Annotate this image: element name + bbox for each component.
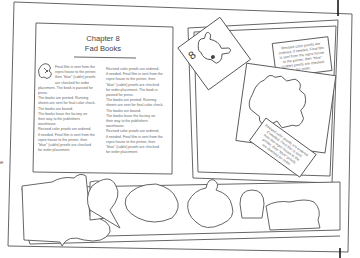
text-line: warehouse. — [38, 122, 57, 126]
text-line: then "blue" (cable) proofs — [55, 75, 96, 79]
text-line: Revised color proofs are ordered, — [106, 67, 159, 71]
skyline-cutout — [266, 200, 320, 230]
text-line: warehouse. — [106, 124, 125, 128]
text-line: The books are printed. Running — [106, 98, 156, 102]
text-line: placement. The book is passed for — [38, 86, 94, 90]
text-line: Final film is sent from the — [55, 65, 95, 69]
chapter-title: Fad Books — [85, 44, 122, 53]
text-line: The books leave the factory on — [38, 112, 87, 116]
text-line: their way to the publishers — [38, 117, 80, 121]
text-line: sheets are sent for final color check. — [38, 101, 96, 105]
text-line: The books are bound. — [38, 107, 73, 111]
text-line: repro house to the printer, then — [38, 138, 87, 142]
text-line: if needed. Final film is sent from the — [106, 135, 163, 139]
text-line: for order placement. — [106, 150, 138, 154]
text-line: repro house to the printer, then — [106, 140, 155, 144]
text-line: "blue" (cable) proofs are checked — [38, 143, 91, 147]
text-line: passed for press. — [106, 93, 134, 97]
text-line: repro house to the printer, — [55, 70, 96, 74]
chapter-label: Chapter 8 — [86, 34, 119, 43]
text-line: if needed. Final film is sent from the — [38, 133, 95, 137]
text-line: "blue" (cable) proofs are checked — [106, 145, 159, 149]
text-line: sheets are sent for final color check. — [106, 103, 164, 107]
text-line: The books are printed. Running — [38, 96, 88, 100]
text-line: Revised color proofs are ordered, — [38, 127, 91, 131]
text-line: repro house to the printer, then — [106, 77, 155, 81]
arch-cutout — [240, 190, 264, 218]
text-line: The books are bound. — [106, 109, 141, 113]
text-line: their way to the publishers — [106, 119, 148, 123]
margin-fragment: e — [0, 159, 4, 165]
text-line: The books leave the factory on — [106, 114, 155, 118]
pop-up-book-illustration: Chapter 8 Fad Books Final film is sent f… — [0, 0, 360, 258]
text-line: are checked for order — [55, 81, 90, 85]
text-line: "blue" (cable) proofs are checked — [106, 83, 159, 87]
text-line: for order placement. — [38, 148, 70, 152]
text-line: if needed. Final film is sent from the — [106, 72, 163, 76]
text-line: Revised color proofs are ordered, — [106, 129, 159, 133]
text-line: press. — [38, 91, 48, 95]
text-line: for order placement. The book is — [106, 88, 158, 92]
